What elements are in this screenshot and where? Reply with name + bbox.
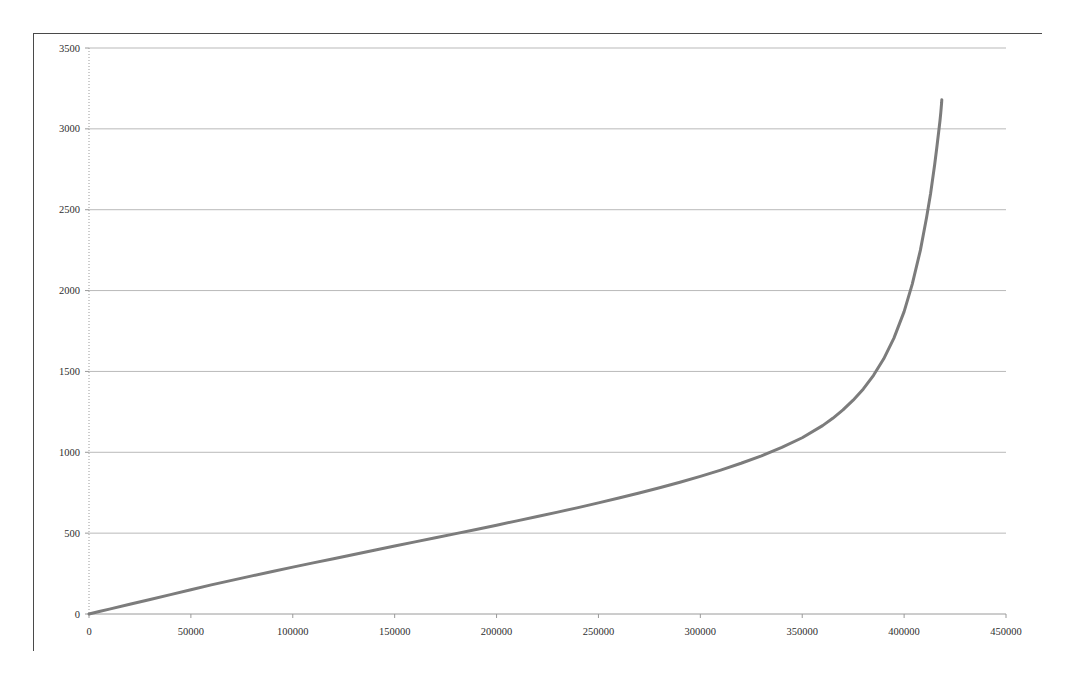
y-tick-label: 3500 [59, 43, 80, 54]
line-chart: 0500100015002000250030003500 05000010000… [34, 34, 1043, 652]
x-tick-label: 400000 [888, 626, 920, 637]
y-tick-label: 1000 [59, 447, 80, 458]
page-cut-text [0, 0, 1071, 6]
x-tick-label: 150000 [379, 626, 411, 637]
y-tick-label: 0 [75, 609, 80, 620]
x-tick-label: 200000 [481, 626, 513, 637]
y-tick-label: 2000 [59, 285, 80, 296]
x-tick-label: 450000 [990, 626, 1022, 637]
y-tick-label: 2500 [59, 204, 80, 215]
x-tick-label: 100000 [277, 626, 309, 637]
y-tick-label: 500 [64, 528, 80, 539]
x-tick-label: 50000 [178, 626, 204, 637]
x-tick-label: 350000 [786, 626, 818, 637]
y-tick-label: 1500 [59, 366, 80, 377]
x-tick-label: 250000 [583, 626, 615, 637]
figure-frame: 0500100015002000250030003500 05000010000… [33, 33, 1042, 651]
x-tick-label: 0 [86, 626, 91, 637]
y-tick-label: 3000 [59, 123, 80, 134]
x-tick-label: 300000 [685, 626, 717, 637]
